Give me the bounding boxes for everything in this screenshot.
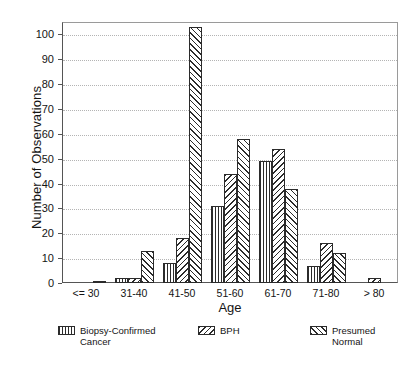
bar bbox=[176, 238, 189, 283]
bar-group bbox=[110, 22, 158, 283]
bar-chart-figure: Number of Observations 01020304050607080… bbox=[0, 0, 414, 368]
y-tick-label: 100 bbox=[36, 28, 54, 40]
legend-label: BPH bbox=[220, 325, 240, 336]
y-tick-label: 80 bbox=[42, 78, 54, 90]
legend-entry: BPH bbox=[198, 325, 240, 336]
y-tick-label: 30 bbox=[42, 202, 54, 214]
chart-legend: Biopsy-Confirmed CancerBPHPresumed Norma… bbox=[58, 325, 398, 359]
bar bbox=[128, 278, 141, 283]
bar bbox=[211, 206, 224, 283]
y-tick-label: 50 bbox=[42, 153, 54, 165]
y-tick-label: 70 bbox=[42, 103, 54, 115]
x-tick-label: 71-80 bbox=[313, 287, 340, 299]
bar bbox=[163, 263, 176, 283]
x-axis-tick-labels: <= 3031-4041-5051-6061-7071-80> 80 bbox=[62, 287, 398, 301]
bar-group bbox=[302, 22, 350, 283]
legend-label: Biopsy-Confirmed Cancer bbox=[80, 325, 156, 347]
y-tick-label: 10 bbox=[42, 252, 54, 264]
legend-label: Presumed Normal bbox=[332, 325, 375, 347]
x-tick-label: 61-70 bbox=[265, 287, 292, 299]
x-tick-label: 41-50 bbox=[169, 287, 196, 299]
bar bbox=[224, 174, 237, 283]
bar bbox=[368, 278, 381, 283]
y-tick-label: 20 bbox=[42, 227, 54, 239]
bar bbox=[189, 27, 202, 283]
bar bbox=[141, 251, 154, 283]
legend-swatch bbox=[58, 326, 75, 335]
bar bbox=[115, 278, 128, 283]
x-axis-title: Age bbox=[62, 300, 398, 315]
x-tick-label: 31-40 bbox=[121, 287, 148, 299]
bar bbox=[272, 149, 285, 283]
bar bbox=[307, 266, 320, 283]
bar bbox=[333, 253, 346, 283]
legend-swatch bbox=[310, 326, 327, 335]
y-tick-mark bbox=[58, 283, 62, 284]
x-tick-label: <= 30 bbox=[73, 287, 100, 299]
legend-entry: Biopsy-Confirmed Cancer bbox=[58, 325, 156, 347]
bar-group bbox=[254, 22, 302, 283]
y-tick-label: 0 bbox=[48, 277, 54, 289]
bar bbox=[320, 243, 333, 283]
x-tick-label: > 80 bbox=[364, 287, 385, 299]
y-tick-label: 40 bbox=[42, 178, 54, 190]
bar-group bbox=[350, 22, 398, 283]
bar bbox=[259, 161, 272, 283]
x-tick-label: 51-60 bbox=[217, 287, 244, 299]
bar-group bbox=[206, 22, 254, 283]
legend-entry: Presumed Normal bbox=[310, 325, 375, 347]
y-tick-label: 90 bbox=[42, 53, 54, 65]
bar-group bbox=[62, 22, 110, 283]
y-tick-label: 60 bbox=[42, 128, 54, 140]
legend-swatch bbox=[198, 326, 215, 335]
bar bbox=[93, 281, 106, 283]
bar bbox=[285, 189, 298, 283]
bars-layer bbox=[62, 22, 398, 283]
y-axis-tick-labels: 0102030405060708090100 bbox=[0, 0, 62, 283]
bar bbox=[237, 139, 250, 283]
bar-group bbox=[158, 22, 206, 283]
